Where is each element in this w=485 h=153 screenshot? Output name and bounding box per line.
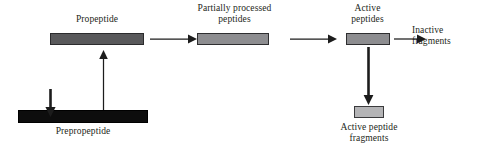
- active-peptides-bar: [346, 33, 390, 45]
- peptide-processing-diagram: Propeptide Partially processed peptides …: [0, 0, 485, 153]
- arrow-propeptide-to-partially-processed: [150, 32, 198, 48]
- active-peptide-fragments-bar: [354, 106, 384, 118]
- partially-processed-peptides-label: Partially processed peptides: [181, 3, 288, 25]
- active-peptides-label: Active peptides: [330, 3, 405, 25]
- prepropeptide-label: Prepropeptide: [30, 126, 136, 137]
- arrow-partially-processed-to-active-peptides: [290, 32, 338, 48]
- prepropeptide-bar: [18, 110, 148, 123]
- arrow-prepropeptide-to-propeptide: [95, 50, 113, 110]
- signal-cleavage-down-arrow-icon: [43, 89, 59, 117]
- arrow-active-peptides-to-inactive-fragments: [394, 32, 428, 48]
- arrow-active-peptides-to-active-peptide-fragments: [360, 47, 378, 105]
- propeptide-label: Propeptide: [50, 14, 144, 25]
- partially-processed-peptides-bar: [197, 33, 269, 45]
- propeptide-bar: [50, 33, 144, 45]
- active-peptide-fragments-label: Active peptide fragments: [318, 122, 420, 144]
